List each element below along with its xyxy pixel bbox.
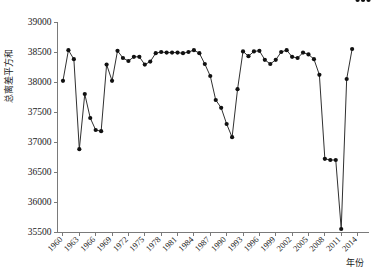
y-axis-tick-label: 35500 (28, 227, 52, 237)
data-point (274, 58, 278, 62)
y-axis-title: 总离差平方和 (3, 49, 14, 103)
data-point (159, 50, 163, 54)
y-axis-tick-label: 39000 (28, 17, 52, 27)
x-axis-tick-label: 2008 (307, 234, 326, 253)
data-point (361, 0, 365, 2)
data-point (345, 77, 349, 81)
data-point (77, 147, 81, 151)
data-point (230, 135, 234, 139)
data-series-total-sum-of-squares (61, 0, 371, 231)
data-point (88, 116, 92, 120)
data-point (132, 55, 136, 59)
data-point (154, 51, 158, 55)
data-point (72, 57, 76, 61)
x-axis-tick-label: 1993 (225, 234, 244, 253)
data-point (328, 158, 332, 162)
data-point (350, 47, 354, 51)
data-point (94, 128, 98, 132)
line-chart: 3550036000365003700037500380003850039000… (0, 0, 380, 273)
data-point (323, 157, 327, 161)
data-point (257, 49, 261, 53)
y-axis-tick-label: 37500 (28, 107, 52, 117)
x-axis-tick-label: 1990 (209, 234, 228, 253)
data-point (181, 51, 185, 55)
x-axis-tick-label: 1987 (193, 234, 212, 253)
data-point (235, 87, 239, 91)
y-axis-tick-label: 38500 (28, 47, 52, 57)
chart-container: 3550036000365003700037500380003850039000… (0, 0, 380, 273)
data-point (186, 50, 190, 54)
data-point (110, 79, 114, 83)
data-point (334, 158, 338, 162)
data-point (246, 54, 250, 58)
x-axis-tick-label: 2011 (324, 234, 343, 253)
data-point (241, 49, 245, 53)
data-point (197, 51, 201, 55)
data-point (355, 0, 359, 2)
x-axis-tick-label: 1975 (127, 234, 146, 253)
data-point (317, 73, 321, 77)
x-axis-tick-label: 1972 (111, 234, 130, 253)
data-point (175, 51, 179, 55)
data-point (290, 55, 294, 59)
data-point (339, 227, 343, 231)
data-point (366, 0, 370, 2)
x-axis-tick-label: 1978 (143, 234, 162, 253)
data-point (285, 48, 289, 52)
data-point (295, 56, 299, 60)
data-point (279, 50, 283, 54)
x-axis-tick-label: 1963 (62, 234, 81, 253)
data-point (126, 59, 130, 63)
data-point (252, 49, 256, 53)
data-point (225, 122, 229, 126)
x-axis-tick-label: 1981 (160, 234, 179, 253)
data-point (219, 106, 223, 110)
data-point (170, 51, 174, 55)
y-axis-tick-label: 36000 (28, 197, 52, 207)
data-point (115, 49, 119, 53)
data-point (165, 51, 169, 55)
y-axis: 3550036000365003700037500380003850039000 (28, 17, 58, 237)
data-point (66, 48, 70, 52)
data-point (143, 63, 147, 67)
x-axis-tick-label: 1966 (78, 234, 97, 253)
x-axis-tick-label: 1984 (176, 234, 196, 254)
data-point (121, 56, 125, 60)
data-point (268, 62, 272, 66)
data-point (99, 129, 103, 133)
x-axis-tick-label: 1996 (242, 234, 261, 253)
data-point (61, 79, 65, 83)
x-axis-title: 年份 (346, 257, 364, 268)
data-point (306, 52, 310, 56)
data-point (214, 98, 218, 102)
y-axis-tick-label: 37000 (28, 137, 52, 147)
data-point (263, 58, 267, 62)
x-axis-tick-label: 2014 (340, 234, 360, 254)
data-point (105, 63, 109, 67)
y-axis-tick-label: 36500 (28, 167, 52, 177)
data-point (192, 48, 196, 52)
x-axis: 1960196319661969197219751978198119841987… (45, 232, 368, 253)
data-point (148, 60, 152, 64)
data-point (83, 92, 87, 96)
x-axis-tick-label: 1969 (94, 234, 113, 253)
series-polyline (63, 49, 352, 229)
data-point (208, 74, 212, 78)
y-axis-tick-label: 38000 (28, 77, 52, 87)
data-point (312, 57, 316, 61)
data-point (203, 62, 207, 66)
x-axis-tick-label: 2002 (274, 234, 293, 253)
x-axis-tick-label: 2005 (291, 234, 310, 253)
x-axis-tick-label: 1999 (258, 234, 277, 253)
data-point (301, 51, 305, 55)
data-point (137, 55, 141, 59)
